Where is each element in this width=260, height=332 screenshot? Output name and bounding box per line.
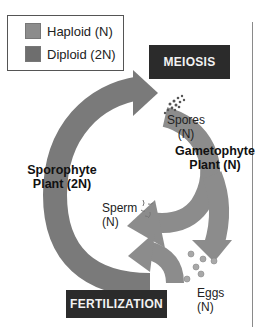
sporophyte-label: Sporophyte Plant (2N) — [22, 163, 102, 191]
eggs-ploidy: (N) — [197, 300, 237, 314]
eggs-text: Eggs — [197, 286, 237, 300]
sperm-ploidy: (N) — [102, 215, 147, 229]
spores-ploidy: (N) — [161, 127, 211, 141]
gametophyte-text: Gametophyte — [170, 144, 260, 158]
sporophyte-ploidy: Plant (2N) — [22, 177, 102, 191]
gametophyte-label: Gametophyte Plant (N) — [170, 144, 260, 172]
sperm-label: Sperm (N) — [102, 201, 147, 229]
spores-label: Spores (N) — [161, 113, 211, 141]
fertilization-label: FERTILIZATION — [66, 290, 167, 318]
sporophyte-text: Sporophyte — [22, 163, 102, 177]
meiosis-label: MEIOSIS — [149, 45, 230, 79]
gametophyte-ploidy: Plant (N) — [170, 158, 260, 172]
spores-text: Spores — [161, 113, 211, 127]
eggs-label: Eggs (N) — [197, 286, 237, 314]
sperm-text: Sperm — [102, 201, 147, 215]
